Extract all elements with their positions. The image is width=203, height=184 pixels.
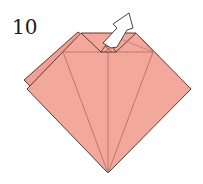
origami-diagram (0, 0, 203, 184)
paper-body (27, 33, 191, 173)
